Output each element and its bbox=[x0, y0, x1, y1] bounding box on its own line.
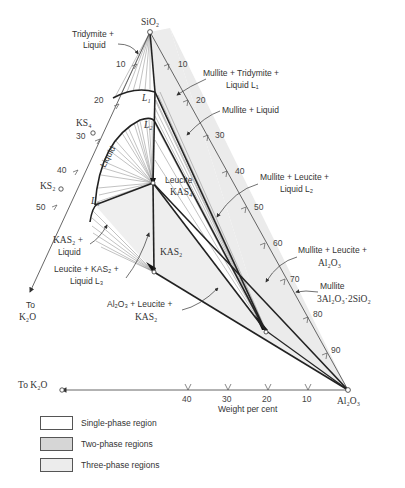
left-tick-50: 50 bbox=[36, 202, 46, 212]
point-l2: L₂ bbox=[143, 120, 153, 130]
ks4-point bbox=[91, 131, 95, 135]
left-tick-30: 30 bbox=[76, 131, 86, 141]
leucite-title: Leucite bbox=[165, 175, 193, 185]
kas2-label: KAS₂ bbox=[160, 247, 182, 257]
legend-swatch-single bbox=[40, 416, 73, 430]
arrow-kas2-liquid bbox=[90, 225, 107, 244]
k2o-bottom-label: To K₂O bbox=[18, 380, 47, 390]
label-al2o3-leucite-kas2-1: Al₂O₃ + Leucite + bbox=[107, 299, 172, 309]
leucite-formula: KAS₄ bbox=[170, 187, 192, 197]
label-mullite-leucite-liquid-2: Liquid L₂ bbox=[280, 184, 313, 194]
right-tick-20: 20 bbox=[196, 95, 206, 105]
point-l1: L₁ bbox=[141, 93, 151, 103]
left-tick-40: 40 bbox=[57, 165, 67, 175]
right-tick-80: 80 bbox=[313, 309, 323, 319]
right-tick-10: 10 bbox=[178, 59, 188, 69]
right-tick-60: 60 bbox=[273, 238, 283, 248]
legend-label: Three-phase regions bbox=[81, 460, 159, 470]
label-kas2-liquid-2: Liquid bbox=[58, 247, 81, 257]
sio2-label: SiO₂ bbox=[141, 17, 159, 27]
legend-item-two-phase: Two-phase regions bbox=[40, 433, 159, 454]
right-tick-50: 50 bbox=[254, 202, 264, 212]
ks4-label: KS₄ bbox=[76, 118, 91, 128]
ks2-point bbox=[59, 187, 63, 191]
sio2-vertex bbox=[148, 30, 153, 35]
right-tick-30: 30 bbox=[215, 130, 225, 140]
label-mullite-leucite-liquid-1: Mullite + Leucite + bbox=[260, 172, 329, 182]
k2o-left-label-to: To bbox=[26, 300, 35, 310]
label-tridymite-liquid-2: Liquid bbox=[83, 40, 106, 50]
label-liquid: Liquid bbox=[98, 144, 118, 169]
legend: Single-phase region Two-phase regions Th… bbox=[40, 412, 159, 475]
al2o3-vertex bbox=[346, 388, 351, 393]
leucite-point bbox=[151, 181, 155, 185]
axis-label: Weight per cent bbox=[218, 404, 278, 414]
label-mullite-liquid: Mullite + Liquid bbox=[222, 105, 279, 115]
left-tick-20: 20 bbox=[94, 95, 104, 105]
legend-swatch-two bbox=[40, 437, 73, 451]
mullite-point bbox=[264, 330, 268, 334]
label-leucite-kas2-liquid-1: Leucite + KAS₂ + bbox=[54, 264, 119, 274]
bottom-tick-20: 20 bbox=[262, 394, 272, 404]
label-mullite-tridymite-liquid-1: Mullite + Tridymite + bbox=[203, 68, 279, 78]
legend-swatch-three bbox=[40, 458, 73, 472]
arrow-tridymite-liquid bbox=[118, 44, 138, 54]
legend-item-three-phase: Three-phase regions bbox=[40, 454, 159, 475]
legend-label: Single-phase region bbox=[81, 418, 157, 428]
legend-item-single-phase: Single-phase region bbox=[40, 412, 159, 433]
label-mullite-leucite-al2o3-2: Al₂O₃ bbox=[318, 258, 341, 268]
mullite-formula: 3Al₂O₃·2SiO₂ bbox=[317, 294, 371, 304]
three-phase-region-leucite-kas2-l3 bbox=[95, 183, 154, 272]
ks2-label: KS₂ bbox=[40, 181, 55, 191]
legend-label: Two-phase regions bbox=[81, 439, 153, 449]
kas2-point bbox=[152, 270, 156, 274]
mullite-title: Mullite bbox=[320, 281, 345, 291]
label-kas2-liquid-1: KAS₂ + bbox=[53, 235, 83, 245]
left-tick-10: 10 bbox=[116, 59, 126, 69]
k2o-bottom-marker bbox=[60, 388, 64, 392]
label-mullite-tridymite-liquid-2: Liquid L₁ bbox=[226, 80, 259, 90]
al2o3-label: Al₂O₃ bbox=[337, 396, 360, 406]
bottom-tick-40: 40 bbox=[182, 394, 192, 404]
right-tick-40: 40 bbox=[235, 166, 245, 176]
right-tick-70: 70 bbox=[290, 274, 300, 284]
k2o-left-formula: K₂O bbox=[19, 312, 36, 322]
bottom-tick-10: 10 bbox=[302, 394, 312, 404]
right-tick-90: 90 bbox=[331, 345, 341, 355]
point-l3: L₃ bbox=[90, 196, 100, 206]
label-leucite-kas2-liquid-2: Liquid L₃ bbox=[70, 276, 103, 286]
label-al2o3-leucite-kas2-2: KAS₂ bbox=[135, 312, 157, 322]
label-mullite-leucite-al2o3-1: Mullite + Leucite + bbox=[298, 245, 367, 255]
label-tridymite-liquid-1: Tridymite + bbox=[72, 29, 114, 39]
bottom-tick-30: 30 bbox=[222, 394, 232, 404]
